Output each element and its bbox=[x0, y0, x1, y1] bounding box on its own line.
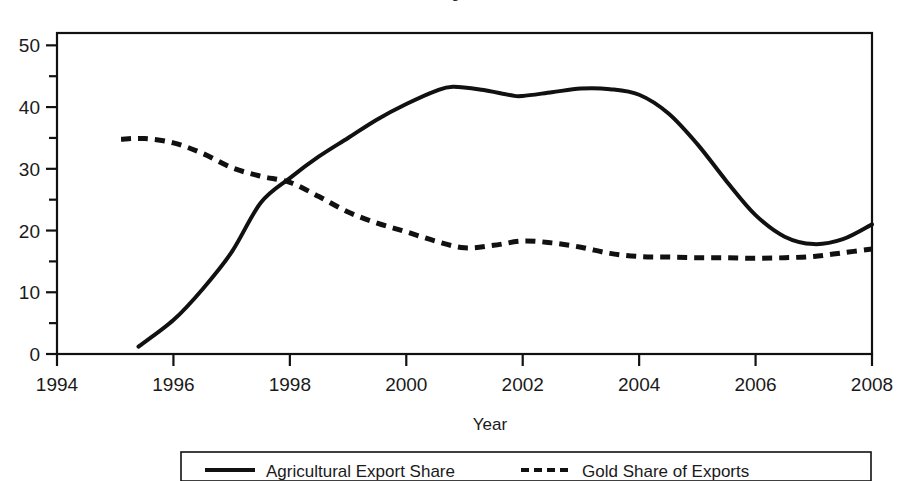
x-axis: 19941996199820002002200420062008 bbox=[36, 354, 893, 395]
y-tick-label: 40 bbox=[19, 97, 40, 118]
y-axis: 01020304050 bbox=[19, 35, 57, 365]
chart-legend: Agricultural Export Share Gold Share of … bbox=[181, 452, 871, 481]
legend-label-agricultural-export-share: Agricultural Export Share bbox=[266, 462, 455, 481]
figure-container: Figure 01020304050 199419961998200020022… bbox=[0, 0, 902, 481]
y-tick-label: 50 bbox=[19, 35, 40, 56]
x-tick-label: 2008 bbox=[851, 374, 893, 395]
y-tick-label: 10 bbox=[19, 282, 40, 303]
x-tick-label: 2004 bbox=[618, 374, 661, 395]
x-tick-label: 1996 bbox=[152, 374, 194, 395]
plot-frame bbox=[57, 33, 872, 354]
x-tick-label: 2006 bbox=[734, 374, 776, 395]
clipped-figure-title: Figure bbox=[330, 0, 590, 2]
x-tick-label: 1994 bbox=[36, 374, 79, 395]
x-tick-label: 2000 bbox=[385, 374, 427, 395]
y-tick-label: 20 bbox=[19, 221, 40, 242]
x-tick-label: 1998 bbox=[269, 374, 311, 395]
x-axis-title: Year bbox=[473, 415, 508, 434]
y-tick-label: 0 bbox=[29, 344, 40, 365]
legend-label-gold-share-of-exports: Gold Share of Exports bbox=[582, 462, 749, 481]
line-chart: 01020304050 1994199619982000200220042006… bbox=[0, 0, 902, 481]
x-tick-label: 2002 bbox=[502, 374, 544, 395]
plot-area bbox=[57, 33, 872, 354]
y-tick-label: 30 bbox=[19, 159, 40, 180]
